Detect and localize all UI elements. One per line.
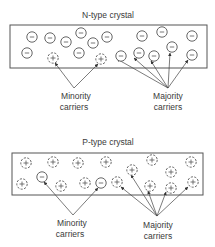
- hole-carrier-icon: [147, 155, 157, 165]
- electron-carrier-icon: [76, 28, 86, 38]
- p-minority-label: Minority: [57, 218, 88, 228]
- p-type-carriers: [17, 155, 198, 193]
- hole-carrier-icon: [17, 179, 27, 189]
- n-type-carriers: [22, 27, 197, 64]
- electron-carrier-icon: [137, 31, 147, 41]
- electron-carrier-icon: [22, 48, 32, 58]
- hole-carrier-icon: [48, 157, 58, 167]
- hole-carrier-icon: [166, 167, 176, 177]
- hole-carrier-icon: [186, 157, 196, 167]
- n-majority-label-line2: carriers: [154, 102, 182, 112]
- electron-carrier-icon: [88, 38, 98, 48]
- hole-carrier-icon: [112, 177, 122, 187]
- electron-carrier-icon: [187, 50, 197, 60]
- majority-arrow: [134, 58, 168, 88]
- p-type-title: P-type crystal: [82, 137, 134, 147]
- n-type-title: N-type crystal: [82, 10, 134, 20]
- electron-carrier-icon: [27, 32, 37, 42]
- p-minority-label-line2: carriers: [56, 229, 84, 239]
- electron-carrier-icon: [149, 51, 159, 61]
- electron-carrier-icon: [187, 31, 197, 41]
- n-minority-label: Minority: [61, 91, 92, 101]
- hole-carrier-icon: [188, 177, 198, 187]
- p-majority-label-line2: carriers: [144, 231, 172, 241]
- n-type-panel: N-type crystal Minority carriers Majorit…: [10, 10, 207, 112]
- majority-arrow: [151, 61, 168, 88]
- hole-carrier-icon: [166, 183, 176, 193]
- diagram-canvas: N-type crystal Minority carriers Majorit…: [0, 0, 215, 247]
- p-type-panel: P-type crystal Minority carriers Majorit…: [12, 137, 203, 241]
- hole-carrier-icon: [80, 178, 90, 188]
- hole-carrier-icon: [21, 158, 31, 168]
- p-majority-label: Majority: [143, 220, 174, 230]
- carriers-diagram: N-type crystal Minority carriers Majorit…: [0, 0, 215, 247]
- electron-carrier-icon: [45, 33, 55, 43]
- majority-arrow: [168, 60, 188, 88]
- majority-arrow: [117, 59, 168, 88]
- hole-carrier-icon: [127, 165, 137, 175]
- electron-carrier-icon: [37, 172, 47, 182]
- minority-arrow: [55, 63, 74, 88]
- electron-carrier-icon: [102, 32, 112, 42]
- hole-carrier-icon: [96, 54, 106, 64]
- minority-arrow: [73, 188, 98, 215]
- hole-carrier-icon: [101, 157, 111, 167]
- electron-carrier-icon: [74, 48, 84, 58]
- electron-carrier-icon: [116, 51, 126, 61]
- electron-carrier-icon: [61, 37, 71, 47]
- electron-carrier-icon: [96, 178, 106, 188]
- hole-carrier-icon: [48, 53, 58, 63]
- hole-carrier-icon: [73, 158, 83, 168]
- electron-carrier-icon: [134, 48, 144, 58]
- majority-arrow: [168, 53, 170, 88]
- electron-carrier-icon: [157, 27, 167, 37]
- majority-arrow: [157, 192, 166, 216]
- n-minority-label-line2: carriers: [60, 102, 88, 112]
- hole-carrier-icon: [56, 181, 66, 191]
- n-majority-label: Majority: [153, 91, 184, 101]
- hole-carrier-icon: [145, 181, 155, 191]
- electron-carrier-icon: [167, 42, 177, 52]
